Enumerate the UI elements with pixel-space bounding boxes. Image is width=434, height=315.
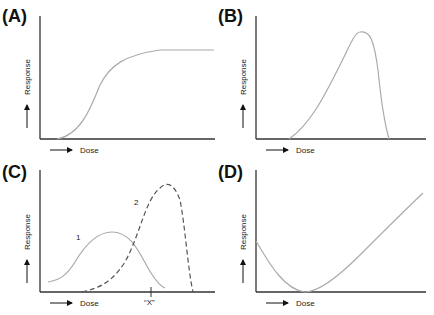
x-axis-label-a: Dose <box>80 146 99 155</box>
y-axis-label-a: Response <box>23 58 32 95</box>
x-axis-label-b: Dose <box>296 146 315 155</box>
x-marker-label: “X” <box>144 298 155 307</box>
panel-c: 1 2 “X” Dose Response <box>23 170 215 308</box>
x-axis-label-d: Dose <box>296 299 315 308</box>
panel-a: Dose Response <box>23 16 215 155</box>
y-axis-label-d: Response <box>239 213 248 250</box>
curve-label-2: 2 <box>134 198 139 207</box>
panel-b: Dose Response <box>239 16 426 155</box>
x-axis-label-c: Dose <box>80 299 99 308</box>
y-axis-label-b: Response <box>239 58 248 95</box>
curve-label-1: 1 <box>76 233 81 242</box>
panel-d: Dose Response <box>239 170 426 308</box>
figure-canvas: Dose Response Dose Response 1 2 “X” Dose… <box>0 0 434 315</box>
y-axis-label-c: Response <box>23 213 32 250</box>
